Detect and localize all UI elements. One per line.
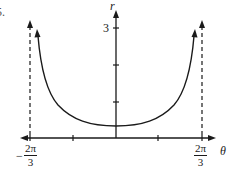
frac-denominator: 3 (28, 156, 34, 168)
r-axis-label: r (110, 0, 115, 12)
curve-left-arrow-icon (35, 29, 41, 38)
frac-numerator: 2π (24, 143, 37, 156)
theta-tick-label-neg-2pi-3: 2π 3 (24, 143, 37, 168)
theta-tick-label-2pi-3: 2π 3 (194, 143, 207, 168)
frac-denominator: 3 (198, 156, 204, 168)
theta-axis-label: θ (220, 145, 226, 157)
theta-axis-left-arrow-icon (20, 135, 28, 141)
right-asymptote-arrow-icon (199, 20, 205, 28)
left-asymptote-arrow-icon (27, 20, 33, 28)
curve-right-arrow-icon (192, 29, 198, 38)
r-tick-label-3: 3 (103, 22, 109, 34)
frac-numerator: 2π (194, 143, 207, 156)
theta-axis-right-arrow-icon (208, 135, 216, 141)
problem-number: 5. (0, 6, 5, 18)
neg-sign: − (16, 150, 23, 162)
